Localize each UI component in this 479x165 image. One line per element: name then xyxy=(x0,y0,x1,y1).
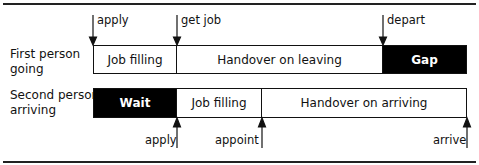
arrow-down-icon xyxy=(90,15,97,45)
bottom-rule xyxy=(3,161,476,163)
arrow-down-icon xyxy=(380,15,387,45)
arrow-down-icon xyxy=(174,15,181,45)
arrows-layer xyxy=(0,0,479,165)
arrow-up-icon xyxy=(259,118,266,148)
arrow-up-icon xyxy=(464,118,471,148)
arrow-up-icon xyxy=(174,118,181,148)
